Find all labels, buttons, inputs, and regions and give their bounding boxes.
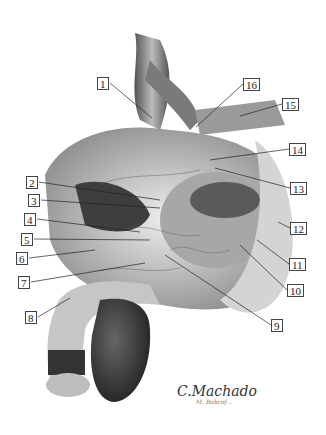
anatomical-figure: 12345678910111213141516 C.Machado M. Bob… bbox=[0, 0, 326, 435]
co-signature: M. Bobrof... bbox=[196, 398, 232, 405]
callout-label-4: 4 bbox=[24, 213, 36, 226]
callout-label-13: 13 bbox=[290, 182, 307, 195]
callout-label-15: 15 bbox=[282, 98, 299, 111]
anatomy-illustration bbox=[0, 0, 326, 435]
artist-signature: C.Machado bbox=[177, 383, 257, 399]
callout-label-2: 2 bbox=[26, 176, 38, 189]
callout-label-12: 12 bbox=[290, 222, 307, 235]
callout-label-11: 11 bbox=[289, 258, 306, 271]
callout-label-5: 5 bbox=[21, 233, 33, 246]
callout-label-1: 1 bbox=[97, 77, 109, 90]
callout-label-9: 9 bbox=[271, 319, 283, 332]
callout-label-14: 14 bbox=[289, 143, 306, 156]
callout-label-6: 6 bbox=[16, 252, 28, 265]
callout-label-10: 10 bbox=[287, 284, 304, 297]
callout-label-16: 16 bbox=[243, 78, 260, 91]
callout-label-8: 8 bbox=[25, 311, 37, 324]
callout-label-7: 7 bbox=[18, 276, 30, 289]
callout-label-3: 3 bbox=[28, 194, 40, 207]
